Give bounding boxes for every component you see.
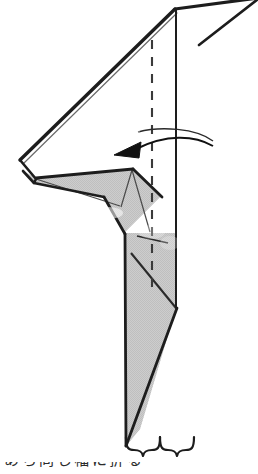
diagram-page: あら同じ幅に折る	[0, 0, 258, 474]
bottom-caption-strip: あら同じ幅に折る	[0, 462, 258, 474]
edge-body-left	[125, 234, 126, 446]
bottom-caption-text: あら同じ幅に折る	[4, 462, 256, 468]
origami-fold-diagram	[0, 0, 258, 474]
